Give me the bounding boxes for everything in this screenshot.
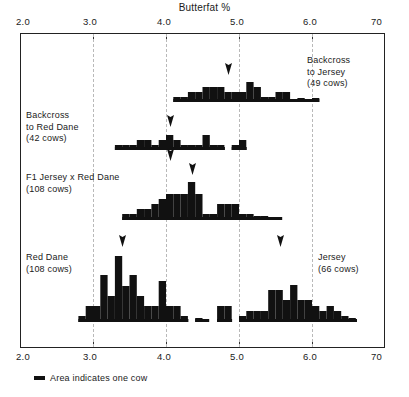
top-tick-label-3: 3.0: [83, 16, 97, 27]
mean-arrow-backcross-to-jersey: [224, 60, 233, 75]
mean-arrow-red-dane: [118, 232, 127, 247]
legend: Area indicates one cow: [34, 373, 147, 383]
bottom-tick-label-3: 3.0: [83, 351, 97, 362]
histogram-jersey: [20, 248, 385, 322]
bottom-tick-label-5: 5.0: [230, 351, 244, 362]
top-tick-label-4: 4.0: [157, 16, 171, 27]
mean-arrow-jersey: [276, 232, 285, 247]
mean-arrow-backcross-to-red-dane: [166, 112, 175, 127]
top-tick-label-7: 70: [371, 16, 382, 27]
mean-arrow-f1-jersey-x-red-dane: [188, 160, 197, 175]
mean-arrow-backcross-to-red-dane-lower: [166, 146, 175, 161]
histogram-f1-jersey-x-red-dane: [20, 176, 385, 220]
bottom-tick-label-6: 6.0: [303, 351, 317, 362]
bottom-tick-label-7: 70: [371, 351, 382, 362]
histogram-backcross-to-jersey: [20, 76, 385, 102]
butterfat-histogram-figure: Butterfat % 2.0 3.0 4.0 5.0 6.0 70 2.0 3…: [0, 0, 409, 397]
series-label-line: Backcross: [307, 55, 350, 67]
top-tick-label-2: 2.0: [16, 16, 30, 27]
top-tick-label-5: 5.0: [230, 16, 244, 27]
top-tick-label-6: 6.0: [303, 16, 317, 27]
bottom-tick-label-2: 2.0: [16, 351, 30, 362]
legend-label-one-cow: Area indicates one cow: [50, 373, 147, 383]
chart-title: Butterfat %: [0, 2, 409, 13]
legend-swatch-one-cow: [34, 376, 45, 380]
bottom-tick-label-4: 4.0: [157, 351, 171, 362]
histogram-backcross-to-red-dane: [20, 126, 385, 150]
series-label-line: Backcross: [26, 110, 79, 122]
